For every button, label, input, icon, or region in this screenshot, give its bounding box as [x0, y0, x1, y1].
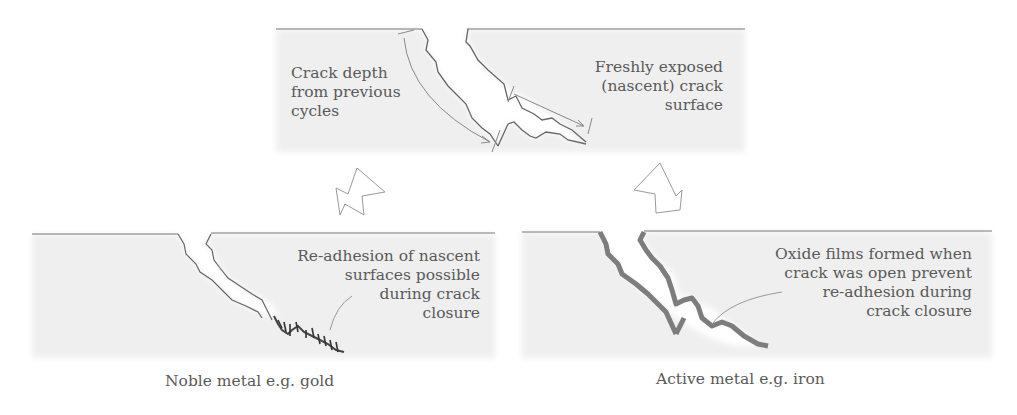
oxide-films-label: Oxide films formed when crack was open p…: [740, 245, 972, 321]
crack-depth-line-1: Crack depth: [291, 64, 401, 83]
diagram: Crack depth from previous cycles Freshly…: [0, 0, 1017, 415]
nascent-line-3: surface: [593, 96, 723, 115]
nascent-surface-label: Freshly exposed (nascent) crack surface: [593, 58, 723, 115]
readhesion-line-3: during crack: [262, 285, 480, 304]
readhesion-line-4: closure: [262, 304, 480, 323]
nascent-line-2: (nascent) crack: [593, 77, 723, 96]
crack-depth-line-3: cycles: [291, 102, 401, 121]
oxide-line-1: Oxide films formed when: [740, 245, 972, 264]
crack-depth-label: Crack depth from previous cycles: [291, 64, 401, 121]
arrow-to-active-icon: [634, 163, 682, 213]
nascent-line-1: Freshly exposed: [593, 58, 723, 77]
readhesion-line-1: Re-adhesion of nascent: [262, 247, 480, 266]
readhesion-label: Re-adhesion of nascent surfaces possible…: [262, 247, 480, 323]
oxide-line-4: crack closure: [740, 302, 972, 321]
oxide-line-2: crack was open prevent: [740, 264, 972, 283]
oxide-line-3: re-adhesion during: [740, 283, 972, 302]
readhesion-line-2: surfaces possible: [262, 266, 480, 285]
noble-metal-caption: Noble metal e.g. gold: [165, 372, 334, 390]
crack-depth-line-2: from previous: [291, 83, 401, 102]
active-metal-caption: Active metal e.g. iron: [656, 370, 825, 388]
arrow-to-noble-icon: [336, 168, 385, 215]
